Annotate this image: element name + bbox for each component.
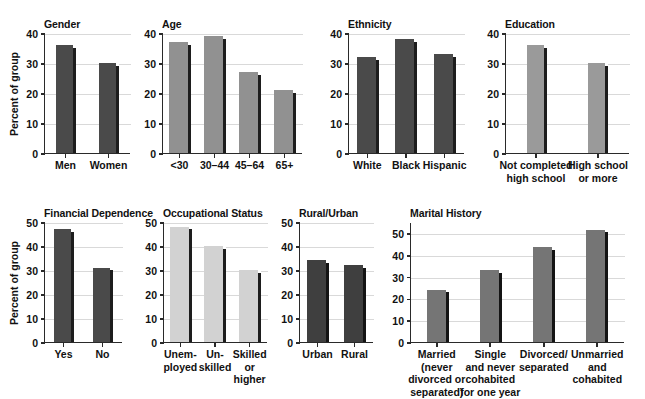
panel-title-marital-history: Marital History [410, 207, 481, 219]
y-axis-label: Percent of group [8, 218, 20, 348]
bar-slot [426, 34, 464, 153]
x-axis-tick-label: Unmarried and cohabited [565, 348, 631, 386]
bar-top-notch [71, 229, 74, 232]
y-axis-tick-label: 10 [310, 118, 342, 130]
y-axis-tick-label: 40 [372, 250, 404, 262]
bar-slot [164, 223, 198, 342]
bar[interactable] [239, 72, 261, 153]
y-tick-mark [502, 153, 506, 155]
bar-face [395, 39, 414, 153]
bar[interactable] [99, 63, 119, 153]
bar[interactable] [204, 36, 226, 153]
panel-title-rural-urban: Rural/Urban [299, 207, 358, 219]
y-axis-tick-label: 30 [125, 265, 157, 277]
bar-shadow-edge [116, 66, 119, 154]
bar-shadow-edge [189, 229, 192, 342]
bar-top-notch [446, 290, 449, 293]
x-tick-mark [63, 343, 65, 347]
bar[interactable] [169, 42, 191, 153]
bar-slot [387, 34, 425, 153]
bar[interactable] [344, 265, 366, 342]
y-axis-tick-label: 0 [310, 148, 342, 160]
y-axis-tick-label: 20 [372, 293, 404, 305]
panel-title-education: Education [505, 18, 555, 30]
bar-slot [45, 223, 84, 342]
bar[interactable] [54, 229, 74, 342]
y-axis-tick-label: 40 [310, 28, 342, 40]
y-axis-tick-label: 10 [467, 118, 499, 130]
y-axis-tick-label: 20 [310, 88, 342, 100]
bar[interactable] [588, 63, 608, 153]
bar[interactable] [427, 290, 449, 342]
bar-shadow-edge [293, 93, 296, 154]
bar-face [93, 268, 110, 342]
bar-face [239, 270, 258, 342]
y-axis-tick-label: 0 [372, 337, 404, 349]
bar-group-age [163, 34, 302, 153]
y-axis-tick-label: 50 [261, 217, 293, 229]
plot-area-occupational-status [163, 223, 267, 343]
bar[interactable] [274, 90, 296, 153]
bar-face [527, 45, 544, 153]
bar[interactable] [395, 39, 417, 153]
bar-group-financial-dependence [45, 223, 122, 342]
bar-top-notch [258, 72, 261, 75]
y-axis-tick-label: 20 [125, 289, 157, 301]
bar-top-notch [414, 39, 417, 42]
y-axis-tick-label: 20 [124, 88, 156, 100]
bar-top-notch [223, 36, 226, 39]
panel-financial-dependence: Financial Dependence01020304050YesNoPerc… [6, 207, 144, 399]
bar[interactable] [533, 247, 555, 342]
bar[interactable] [93, 268, 113, 342]
bar-face [307, 260, 326, 342]
x-tick-mark [180, 343, 182, 347]
bar-slot [411, 223, 464, 342]
y-axis-tick-label: 30 [261, 265, 293, 277]
bar-group-marital-history [411, 223, 624, 342]
plot-area-age [162, 34, 302, 154]
bar[interactable] [480, 270, 502, 342]
bar-top-notch [110, 268, 113, 271]
y-axis-tick-label: 30 [467, 58, 499, 70]
y-axis-tick-label: 10 [261, 313, 293, 325]
bar-face [533, 247, 552, 342]
bar-shadow-edge [544, 48, 547, 154]
bar-shadow-edge [110, 270, 113, 342]
y-tick-mark [160, 342, 164, 344]
bar-top-notch [363, 265, 366, 268]
x-tick-mark [249, 343, 251, 347]
panel-title-ethnicity: Ethnicity [348, 18, 391, 30]
bar[interactable] [56, 45, 76, 153]
bar-face [357, 57, 376, 153]
bar[interactable] [307, 260, 329, 342]
bar-top-notch [552, 247, 555, 250]
y-tick-mark [41, 342, 45, 344]
x-tick-mark [354, 343, 356, 347]
bar[interactable] [527, 45, 547, 153]
bar-group-ethnicity [349, 34, 464, 153]
bar-top-notch [293, 90, 296, 93]
y-axis-tick-label: 50 [125, 217, 157, 229]
bar[interactable] [434, 54, 456, 153]
y-axis-tick-label: 10 [125, 313, 157, 325]
x-tick-mark [214, 343, 216, 347]
bar-shadow-edge [71, 232, 74, 342]
x-tick-mark [108, 154, 110, 158]
bar-shadow-edge [605, 66, 608, 154]
plot-area-ethnicity [348, 34, 464, 154]
bar[interactable] [586, 230, 608, 342]
bar-top-notch [605, 230, 608, 233]
bar[interactable] [239, 270, 261, 342]
x-axis-tick-label: No [77, 348, 129, 361]
bar-shadow-edge [223, 39, 226, 154]
bar[interactable] [170, 227, 192, 342]
panel-age: Age010203040<3030–4445–6465+ [124, 18, 324, 228]
y-axis-tick-label: 20 [261, 289, 293, 301]
bar-face [56, 45, 73, 153]
bar[interactable] [204, 246, 226, 342]
bar-face [239, 72, 258, 153]
bar[interactable] [357, 57, 379, 153]
bar-slot [506, 34, 568, 153]
y-axis-tick-label: 40 [125, 241, 157, 253]
bar-shadow-edge [326, 263, 329, 342]
